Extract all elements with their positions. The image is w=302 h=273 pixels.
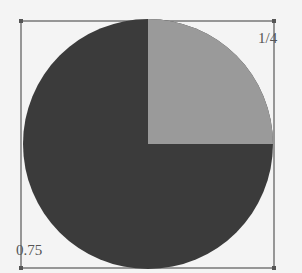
label-quarter: 1/4 [258,30,277,47]
label-rest: 0.75 [16,242,42,259]
pie-chart [0,0,302,273]
frame-handle [19,19,23,23]
frame-handle [272,19,276,23]
frame-handle [19,266,23,270]
frame-handle [272,266,276,270]
pie-slice-1/4 [148,19,273,144]
